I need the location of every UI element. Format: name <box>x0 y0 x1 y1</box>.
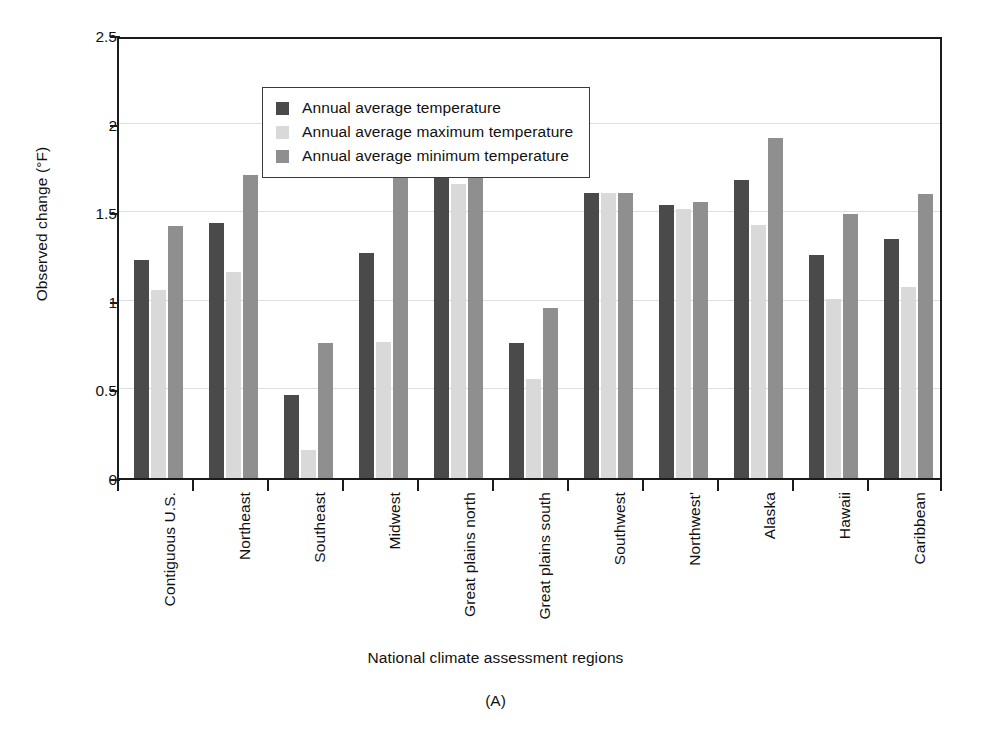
x-tick-label: Alaska <box>761 492 779 662</box>
bar <box>451 184 466 478</box>
bar <box>243 175 258 478</box>
bar-group <box>884 39 933 478</box>
x-tick-label: Southwest <box>611 492 629 662</box>
x-tick-label: Northeast <box>236 492 254 662</box>
x-tick-label: Contiguous U.S. <box>161 492 179 662</box>
bar <box>134 260 149 478</box>
bar-group <box>209 39 258 478</box>
x-tick-label: Midwest <box>386 492 404 662</box>
bar <box>734 180 749 478</box>
bar <box>884 239 899 478</box>
bar-group <box>659 39 708 478</box>
bar <box>918 194 933 478</box>
figure-panel-a: Observed change (°F) 00.511.522.5 Annual… <box>0 0 991 748</box>
x-tick-label: Northwest' <box>686 492 704 662</box>
plot-area: Annual average temperature Annual averag… <box>117 37 942 480</box>
bar-group <box>734 39 783 478</box>
x-tick-label: Great plains north <box>461 492 479 662</box>
legend: Annual average temperature Annual averag… <box>262 87 590 178</box>
legend-item: Annual average minimum temperature <box>276 144 573 168</box>
x-tick-mark <box>342 480 344 491</box>
legend-swatch-icon <box>276 126 289 139</box>
bar <box>393 166 408 478</box>
y-axis-ticks: 00.511.522.5 <box>57 37 117 480</box>
x-tick-mark <box>867 480 869 491</box>
legend-swatch-icon <box>276 150 289 163</box>
x-tick-mark <box>567 480 569 491</box>
legend-label: Annual average temperature <box>302 99 501 117</box>
bar <box>226 272 241 478</box>
bar <box>768 138 783 478</box>
y-axis-title: Observed change (°F) <box>33 64 51 384</box>
bar <box>843 214 858 478</box>
x-tick-label: Hawaii <box>836 492 854 662</box>
x-tick-mark <box>940 480 942 491</box>
bar <box>526 379 541 478</box>
x-tick-label: Great plains south <box>536 492 554 662</box>
bar <box>468 173 483 478</box>
bar-group <box>134 39 183 478</box>
bar-group <box>809 39 858 478</box>
x-tick-mark <box>192 480 194 491</box>
bar-group <box>584 39 633 478</box>
bar <box>751 225 766 478</box>
x-tick-label: Southeast <box>311 492 329 662</box>
bar <box>376 342 391 478</box>
panel-caption: (A) <box>0 692 991 710</box>
legend-item: Annual average temperature <box>276 96 573 120</box>
bar <box>318 343 333 478</box>
bar <box>151 290 166 478</box>
bar <box>901 287 916 478</box>
bar <box>584 193 599 478</box>
x-axis-category-labels: Contiguous U.S.NortheastSoutheastMidwest… <box>117 492 942 642</box>
x-tick-mark <box>717 480 719 491</box>
x-tick-mark <box>417 480 419 491</box>
legend-swatch-icon <box>276 102 289 115</box>
legend-item: Annual average maximum temperature <box>276 120 573 144</box>
x-tick-mark <box>492 480 494 491</box>
bar <box>209 223 224 478</box>
x-tick-label: Caribbean <box>911 492 929 662</box>
x-axis-title: National climate assessment regions <box>0 649 991 667</box>
bar <box>826 299 841 478</box>
bar <box>809 255 824 478</box>
legend-label: Annual average minimum temperature <box>302 147 569 165</box>
bar <box>359 253 374 478</box>
x-tick-mark <box>792 480 794 491</box>
bar <box>693 202 708 478</box>
legend-label: Annual average maximum temperature <box>302 123 573 141</box>
x-tick-mark <box>642 480 644 491</box>
bar <box>168 226 183 478</box>
bar <box>301 450 316 478</box>
bar <box>676 209 691 478</box>
x-axis-ticks <box>117 480 942 492</box>
bar <box>601 193 616 478</box>
bar <box>509 343 524 478</box>
bar <box>543 308 558 478</box>
x-tick-mark <box>267 480 269 491</box>
bar <box>434 177 449 478</box>
x-tick-mark <box>117 480 119 491</box>
bar <box>659 205 674 478</box>
bar <box>284 395 299 478</box>
bar <box>618 193 633 478</box>
